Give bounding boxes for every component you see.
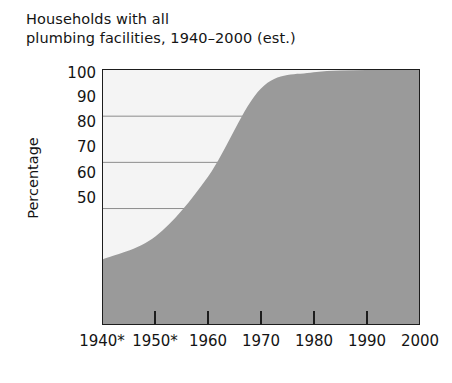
- x-tick-label: 1980: [295, 333, 333, 350]
- y-tick-label: 70: [56, 140, 96, 155]
- area-chart-figure: Households with all plumbing facilities,…: [0, 0, 452, 383]
- y-tick-label: 90: [56, 90, 96, 105]
- x-tick-label: 1950*: [132, 333, 178, 350]
- x-tick-label: 2000: [401, 333, 439, 350]
- x-tick-label: 1990: [348, 333, 386, 350]
- area-series-plumbing-facilities: [103, 70, 419, 324]
- area-fill: [103, 70, 419, 324]
- x-axis-tick-labels: 1940*1950*19601970198019902000: [0, 333, 452, 357]
- plot-area: [102, 69, 420, 325]
- x-axis-tick-marks: [102, 311, 420, 327]
- x-tick-label: 1970: [242, 333, 280, 350]
- x-tick-label: 1940*: [79, 333, 125, 350]
- x-tick-label: 1960: [189, 333, 227, 350]
- y-axis-tick-labels: 1009080706050: [52, 0, 96, 383]
- y-tick-label: 60: [56, 166, 96, 181]
- y-axis-title: Percentage: [25, 118, 41, 238]
- y-tick-label: 100: [56, 66, 96, 81]
- y-tick-label: 50: [56, 191, 96, 206]
- y-tick-label: 80: [56, 115, 96, 130]
